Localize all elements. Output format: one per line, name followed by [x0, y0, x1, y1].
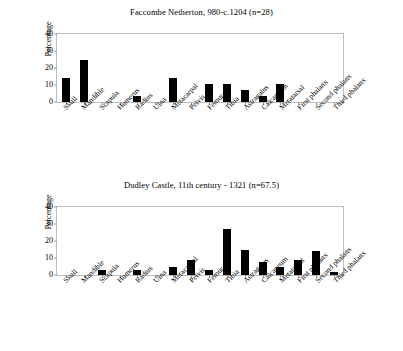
x-axis-labels: SkullMandibleScapulaHumerusRadiusUlnaMet… [56, 277, 344, 347]
bar-slot [236, 34, 254, 102]
bar-slot [164, 207, 182, 275]
bar-slot [200, 34, 218, 102]
bar-slot [75, 207, 93, 275]
chart-faccombe-netherton: Faccombe Netherton, 980-c.1204 (n=28) Pe… [0, 0, 403, 175]
bar-slot [164, 34, 182, 102]
bar-slot [236, 207, 254, 275]
chart-title: Faccombe Netherton, 980-c.1204 (n=28) [0, 7, 403, 17]
bar-slot [75, 34, 93, 102]
chart-title: Dudley Castle, 11th century - 1321 (n=67… [0, 180, 403, 190]
x-axis-labels: SkullMandibleScapulaHumerusRadiusUlnaMet… [56, 104, 344, 174]
bar-slot [200, 207, 218, 275]
chart-dudley-castle: Dudley Castle, 11th century - 1321 (n=67… [0, 175, 403, 351]
bar-slot [57, 207, 75, 275]
bar-slot [57, 34, 75, 102]
bar [80, 60, 88, 103]
